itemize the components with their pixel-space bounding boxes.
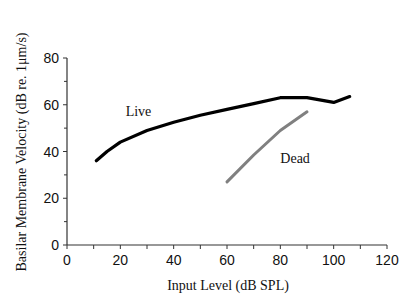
x-tick-label: 20 [113, 252, 129, 268]
x-tick-label: 40 [166, 252, 182, 268]
y-tick-label: 80 [43, 50, 59, 66]
x-axis-title: Input Level (dB SPL) [167, 278, 289, 294]
series-label-dead: Dead [280, 151, 310, 166]
y-tick-label: 60 [43, 97, 59, 113]
x-tick-label: 0 [63, 252, 71, 268]
y-tick-label: 40 [43, 144, 59, 160]
x-tick-label: 60 [219, 252, 235, 268]
y-tick-label: 0 [51, 237, 59, 253]
x-tick-label: 80 [273, 252, 289, 268]
series-label-live: Live [126, 104, 152, 119]
line-chart: 020406080100120020406080 LiveDead Input … [0, 0, 415, 302]
y-tick-label: 20 [43, 190, 59, 206]
x-tick-label: 120 [375, 252, 399, 268]
y-axis-title: Basilar Membrane Velocity (dB re. 1μm/s) [14, 32, 30, 271]
series-line-dead [227, 112, 307, 182]
x-tick-label: 100 [322, 252, 346, 268]
series-layer: LiveDead [96, 97, 349, 182]
